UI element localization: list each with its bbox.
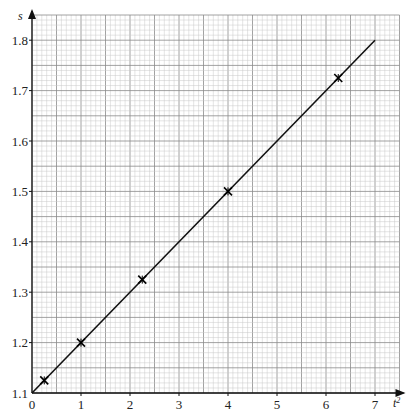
y-tick-label: 1.6 <box>12 134 29 149</box>
y-tick-label: 1.5 <box>12 184 28 199</box>
y-tick-label: 1.4 <box>12 234 29 249</box>
x-tick-label: 4 <box>225 397 232 412</box>
x-tick-label: 1 <box>78 397 85 412</box>
chart: 012345671.11.21.31.41.51.61.71.8 t2 s <box>0 0 418 418</box>
data-point-marker <box>138 276 146 284</box>
x-tick-label: 7 <box>372 397 379 412</box>
y-tick-label: 1.8 <box>12 33 28 48</box>
tick-labels: 012345671.11.21.31.41.51.61.71.8 <box>12 33 379 412</box>
data-point-marker <box>40 376 48 384</box>
y-tick-label: 1.2 <box>12 335 28 350</box>
y-tick-label: 1.3 <box>12 285 28 300</box>
x-tick-label: 6 <box>323 397 330 412</box>
x-tick-label: 0 <box>29 397 36 412</box>
y-tick-label: 1.1 <box>12 386 28 401</box>
x-axis-label: t2 <box>393 396 400 411</box>
x-tick-label: 2 <box>127 397 134 412</box>
data-point-marker <box>334 74 342 82</box>
x-tick-label: 5 <box>274 397 281 412</box>
y-axis-label: s <box>18 9 23 23</box>
y-tick-label: 1.7 <box>12 83 29 98</box>
x-tick-label: 3 <box>176 397 183 412</box>
